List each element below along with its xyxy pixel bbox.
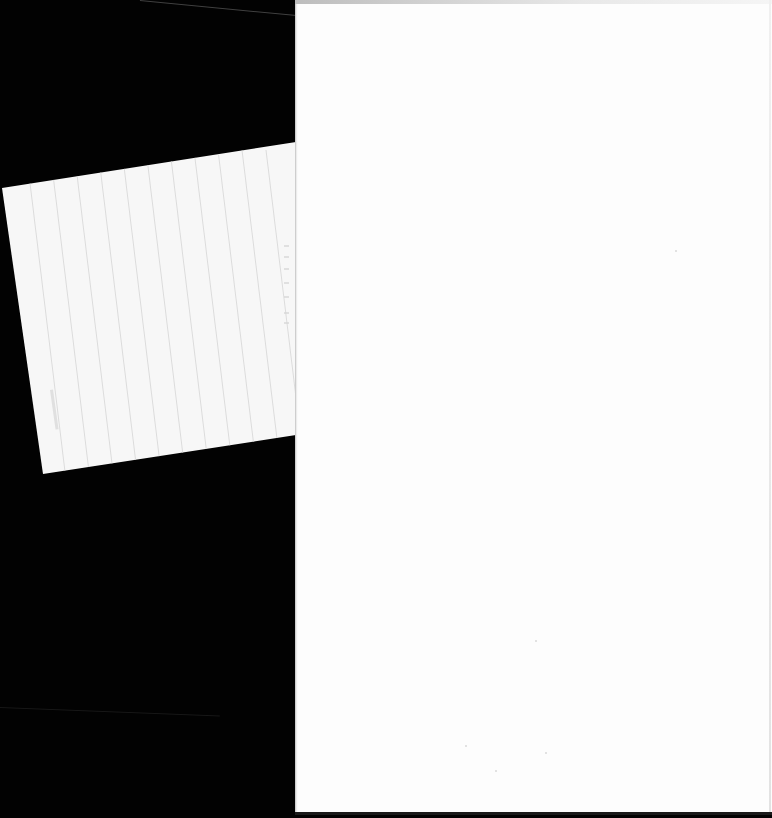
page-bottom-edge: [295, 812, 772, 815]
page-top-shadow: [295, 0, 772, 4]
scan-speck: [545, 752, 547, 754]
right-blank-page: [295, 0, 772, 815]
scanned-document: [0, 0, 772, 818]
scan-speck: [495, 770, 497, 772]
page-right-edge: [769, 0, 771, 815]
scan-speck: [675, 250, 677, 252]
scan-speck: [535, 640, 537, 642]
scan-speck: [465, 745, 467, 747]
